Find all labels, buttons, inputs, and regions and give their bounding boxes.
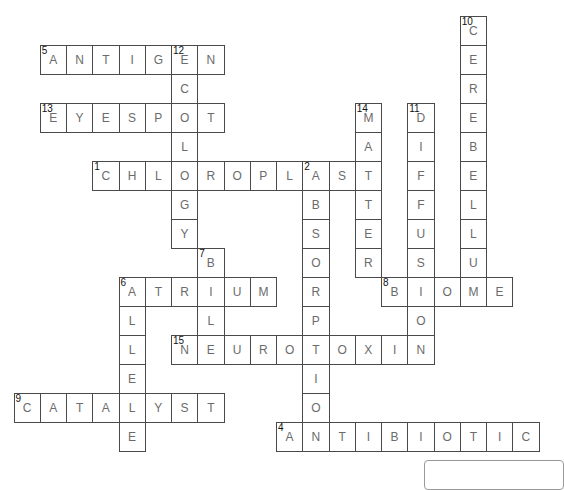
crossword-cell[interactable]: 15N <box>171 335 198 365</box>
crossword-cell[interactable]: 2A <box>302 161 329 191</box>
crossword-cell[interactable]: L <box>145 161 172 191</box>
crossword-cell[interactable]: S <box>407 248 434 278</box>
crossword-cell[interactable]: I <box>407 132 434 162</box>
crossword-cell[interactable]: U <box>407 219 434 249</box>
crossword-cell[interactable]: E <box>460 103 487 133</box>
crossword-cell[interactable]: I <box>486 422 513 452</box>
crossword-cell[interactable]: 1C <box>92 161 119 191</box>
crossword-cell[interactable]: N <box>407 335 434 365</box>
crossword-cell[interactable]: S <box>171 393 198 423</box>
crossword-cell[interactable]: O <box>434 277 461 307</box>
crossword-cell[interactable]: I <box>119 45 146 75</box>
crossword-cell[interactable]: 13E <box>40 103 67 133</box>
crossword-cell[interactable]: T <box>92 45 119 75</box>
crossword-cell[interactable]: X <box>355 335 382 365</box>
crossword-cell[interactable]: U <box>224 277 251 307</box>
crossword-cell[interactable]: U <box>224 335 251 365</box>
crossword-cell[interactable]: R <box>250 335 277 365</box>
crossword-cell[interactable]: F <box>407 190 434 220</box>
crossword-cell[interactable]: E <box>460 45 487 75</box>
crossword-cell[interactable]: T <box>197 103 224 133</box>
crossword-cell[interactable]: T <box>66 393 93 423</box>
crossword-cell[interactable]: S <box>302 219 329 249</box>
crossword-cell[interactable]: O <box>329 335 356 365</box>
crossword-cell[interactable]: N <box>66 45 93 75</box>
crossword-cell[interactable]: E <box>92 103 119 133</box>
crossword-cell[interactable]: I <box>197 277 224 307</box>
crossword-cell[interactable]: L <box>276 161 303 191</box>
crossword-cell[interactable]: O <box>276 335 303 365</box>
crossword-cell[interactable]: F <box>407 161 434 191</box>
crossword-cell[interactable]: I <box>381 335 408 365</box>
crossword-cell[interactable]: 9C <box>14 393 41 423</box>
crossword-cell[interactable]: E <box>486 277 513 307</box>
crossword-cell[interactable]: L <box>460 190 487 220</box>
crossword-cell[interactable]: T <box>302 335 329 365</box>
crossword-cell[interactable]: T <box>355 190 382 220</box>
crossword-cell[interactable]: 12E <box>171 45 198 75</box>
crossword-cell[interactable]: O <box>171 161 198 191</box>
crossword-cell[interactable]: L <box>197 306 224 336</box>
crossword-cell[interactable]: M <box>460 277 487 307</box>
crossword-cell[interactable]: L <box>171 132 198 162</box>
crossword-cell[interactable]: A <box>355 132 382 162</box>
crossword-cell[interactable]: Y <box>66 103 93 133</box>
crossword-cell[interactable]: R <box>197 161 224 191</box>
crossword-cell[interactable]: E <box>460 161 487 191</box>
crossword-cell[interactable]: L <box>119 393 146 423</box>
crossword-cell[interactable]: 5A <box>40 45 67 75</box>
crossword-cell[interactable]: A <box>40 393 67 423</box>
crossword-cell[interactable]: 7B <box>197 248 224 278</box>
crossword-cell[interactable]: E <box>355 219 382 249</box>
answer-input-box[interactable] <box>424 460 564 490</box>
crossword-cell[interactable]: G <box>145 45 172 75</box>
crossword-cell[interactable]: C <box>512 422 539 452</box>
crossword-cell[interactable]: L <box>119 335 146 365</box>
crossword-cell[interactable]: I <box>407 422 434 452</box>
crossword-cell[interactable]: S <box>329 161 356 191</box>
crossword-cell[interactable]: T <box>460 422 487 452</box>
crossword-cell[interactable]: L <box>460 219 487 249</box>
crossword-cell[interactable]: R <box>355 248 382 278</box>
crossword-cell[interactable]: M <box>250 277 277 307</box>
crossword-cell[interactable]: B <box>381 422 408 452</box>
crossword-cell[interactable]: E <box>197 335 224 365</box>
crossword-cell[interactable]: Y <box>145 393 172 423</box>
crossword-cell[interactable]: R <box>460 74 487 104</box>
crossword-cell[interactable]: 6A <box>119 277 146 307</box>
crossword-cell[interactable]: U <box>460 248 487 278</box>
crossword-cell[interactable]: A <box>92 393 119 423</box>
crossword-cell[interactable]: R <box>302 277 329 307</box>
crossword-cell[interactable]: P <box>250 161 277 191</box>
crossword-cell[interactable]: 11D <box>407 103 434 133</box>
crossword-cell[interactable]: I <box>355 422 382 452</box>
crossword-cell[interactable]: I <box>302 364 329 394</box>
crossword-cell[interactable]: E <box>119 422 146 452</box>
crossword-cell[interactable]: R <box>171 277 198 307</box>
crossword-cell[interactable]: 4A <box>276 422 303 452</box>
crossword-cell[interactable]: P <box>302 306 329 336</box>
crossword-cell[interactable]: T <box>145 277 172 307</box>
crossword-cell[interactable]: G <box>171 190 198 220</box>
crossword-cell[interactable]: I <box>407 277 434 307</box>
crossword-cell[interactable]: O <box>407 306 434 336</box>
crossword-cell[interactable]: S <box>119 103 146 133</box>
crossword-cell[interactable]: C <box>171 74 198 104</box>
crossword-cell[interactable]: B <box>302 190 329 220</box>
crossword-cell[interactable]: O <box>224 161 251 191</box>
crossword-cell[interactable]: L <box>119 306 146 336</box>
crossword-cell[interactable]: 14M <box>355 103 382 133</box>
crossword-cell[interactable]: N <box>302 422 329 452</box>
crossword-cell[interactable]: 10C <box>460 16 487 46</box>
crossword-cell[interactable]: E <box>119 364 146 394</box>
crossword-cell[interactable]: O <box>302 393 329 423</box>
crossword-cell[interactable]: T <box>355 161 382 191</box>
crossword-cell[interactable]: P <box>145 103 172 133</box>
crossword-cell[interactable]: N <box>197 45 224 75</box>
crossword-cell[interactable]: O <box>434 422 461 452</box>
crossword-cell[interactable]: O <box>302 248 329 278</box>
crossword-cell[interactable]: B <box>460 132 487 162</box>
crossword-cell[interactable]: Y <box>171 219 198 249</box>
crossword-cell[interactable]: T <box>329 422 356 452</box>
crossword-cell[interactable]: T <box>197 393 224 423</box>
